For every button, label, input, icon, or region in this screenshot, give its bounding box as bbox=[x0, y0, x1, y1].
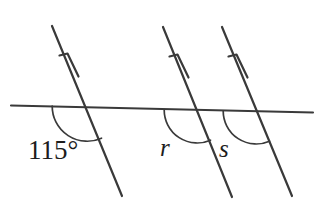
angle-label-r: r bbox=[160, 135, 170, 160]
angle-label-115: 115° bbox=[28, 137, 78, 164]
transversal-line bbox=[11, 106, 313, 113]
geometry-figure: 115° r s bbox=[0, 0, 321, 217]
parallel-line-2 bbox=[163, 27, 232, 197]
parallel-line-1 bbox=[52, 26, 122, 196]
geometry-canvas bbox=[0, 0, 321, 217]
angle-label-s: s bbox=[219, 136, 229, 161]
